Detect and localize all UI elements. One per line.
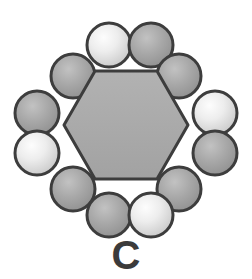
- sphere-right-upper: [193, 91, 237, 135]
- sphere-top-left: [87, 23, 131, 67]
- figure-panel: C: [0, 0, 252, 279]
- sphere-bottom-right: [129, 193, 173, 237]
- sphere-left-lower: [15, 131, 59, 175]
- sphere-bottom-left: [87, 193, 131, 237]
- sphere-right-lower: [193, 131, 237, 175]
- sphere-left-upper: [15, 91, 59, 135]
- panel-label-c: C: [0, 234, 252, 276]
